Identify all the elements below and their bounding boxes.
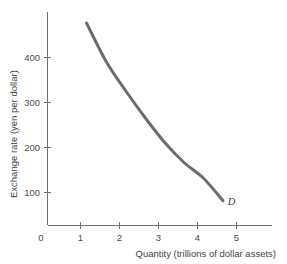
demand-curve-label: D: [227, 196, 236, 207]
y-axis-title: Exchange rate (yen per dollar): [8, 70, 19, 198]
x-tick-label-2: 2: [117, 232, 122, 243]
y-tick-label-300: 300: [24, 97, 40, 108]
x-tick-label-5: 5: [234, 232, 239, 243]
x-tick-label-1: 1: [78, 232, 83, 243]
x-tick-label-3: 3: [156, 232, 161, 243]
x-tick-label-4: 4: [195, 232, 200, 243]
y-tick-label-100: 100: [24, 187, 40, 198]
x-tick-label-0: 0: [38, 232, 43, 243]
y-tick-label-400: 400: [24, 52, 40, 63]
exchange-rate-demand-chart: 400 300 200 100 0 1 2 3 4 5 D Exchange r…: [0, 0, 287, 264]
x-axis-title: Quantity (trillions of dollar assets): [136, 248, 276, 259]
y-tick-label-200: 200: [24, 142, 40, 153]
chart-background: [0, 0, 287, 264]
